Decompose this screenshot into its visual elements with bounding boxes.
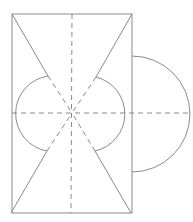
diagonal-tr-center-dashed	[72, 77, 96, 113]
vertical-center-dashed-line	[71, 14, 72, 213]
diagonal-tl-center-dashed	[48, 76, 72, 113]
diagonal-bottom-left-solid	[11, 151, 47, 213]
right-outer-semicircle	[132, 56, 190, 172]
diagonal-bottom-right-solid	[95, 151, 131, 213]
diagonal-top-left-solid	[12, 14, 48, 76]
diagonal-top-right-solid	[96, 14, 132, 77]
geometric-net-diagram	[0, 0, 193, 222]
diagonal-bl-center-dashed	[47, 113, 72, 151]
diagonal-br-center-dashed	[72, 113, 95, 151]
right-inner-arc	[95, 77, 125, 151]
